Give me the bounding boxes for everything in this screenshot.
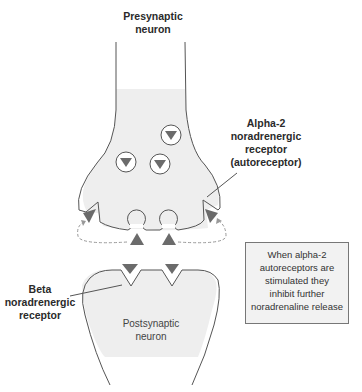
beta-receptor-label: Beta noradrenergic receptor bbox=[0, 283, 80, 322]
vesicle-icon bbox=[161, 125, 181, 145]
note-line: When alpha-2 bbox=[246, 248, 348, 261]
vesicle-icon bbox=[150, 154, 170, 174]
label-line: neuron bbox=[110, 330, 192, 343]
label-line: receptor bbox=[0, 309, 80, 322]
label-line: Beta bbox=[0, 283, 80, 296]
note-line: inhibit further bbox=[246, 287, 348, 300]
label-line: noradrenergic bbox=[222, 130, 310, 143]
label-line: receptor bbox=[222, 143, 310, 156]
postsynaptic-neuron-label: Postsynaptic neuron bbox=[110, 317, 192, 343]
label-line: Alpha-2 bbox=[222, 117, 310, 130]
label-line: Presynaptic bbox=[105, 10, 201, 23]
label-line: (autoreceptor) bbox=[222, 156, 310, 169]
note-line: stimulated they bbox=[246, 274, 348, 287]
label-line: Postsynaptic bbox=[110, 317, 192, 330]
label-line: neuron bbox=[105, 23, 201, 36]
noradrenaline-molecule-icon bbox=[162, 233, 176, 245]
note-line: autoreceptors are bbox=[246, 261, 348, 274]
presynaptic-neuron-label: Presynaptic neuron bbox=[105, 10, 201, 36]
alpha2-receptor-label: Alpha-2 noradrenergic receptor (autorece… bbox=[222, 117, 310, 169]
postsynaptic-neuron-shape bbox=[82, 270, 217, 357]
noradrenaline-molecule-icon bbox=[165, 264, 179, 274]
vesicle-icon bbox=[116, 152, 136, 172]
label-line: noradrenergic bbox=[0, 296, 80, 309]
noradrenaline-molecule-icon bbox=[122, 264, 138, 274]
noradrenaline-molecule-icon bbox=[130, 233, 144, 245]
note-line: noradrenaline release bbox=[246, 300, 348, 313]
autoreceptor-note-box: When alpha-2 autoreceptors are stimulate… bbox=[245, 242, 349, 324]
